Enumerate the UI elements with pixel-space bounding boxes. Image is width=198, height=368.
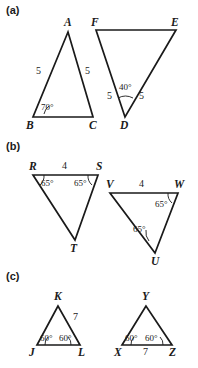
side-length-label-abc-1: 5 bbox=[85, 66, 90, 76]
vertex-label-l: L bbox=[78, 347, 85, 359]
part-label-b: (b) bbox=[6, 140, 20, 152]
angle-label-def-0: 40° bbox=[119, 83, 132, 92]
side-length-label-vwu-0: 4 bbox=[139, 179, 144, 189]
side-length-label-jkl-0: 7 bbox=[73, 312, 78, 322]
vertex-label-r: R bbox=[29, 161, 37, 173]
vertex-label-k: K bbox=[54, 291, 62, 303]
angle-label-jkl-1: 60° bbox=[59, 334, 72, 343]
angle-label-vwu-1: 65° bbox=[133, 225, 146, 234]
angle-arc-vwu-0 bbox=[168, 193, 172, 203]
side-length-label-def-0: 5 bbox=[107, 91, 112, 101]
vertex-label-e: E bbox=[171, 17, 179, 29]
side-length-label-def-1: 5 bbox=[139, 91, 144, 101]
vertex-label-u: U bbox=[151, 256, 159, 268]
vertex-label-v: V bbox=[106, 179, 114, 191]
vertex-label-s: S bbox=[96, 161, 102, 173]
vertex-label-b: B bbox=[26, 120, 34, 132]
angle-arc-vwu-1 bbox=[146, 230, 149, 241]
angle-arc-rst-1 bbox=[88, 175, 92, 185]
vertex-label-d: D bbox=[120, 120, 128, 132]
vertex-label-a: A bbox=[64, 17, 72, 29]
angle-label-vwu-0: 65° bbox=[155, 200, 168, 209]
triangles-svg-layer bbox=[0, 0, 198, 368]
part-label-c: (c) bbox=[6, 270, 19, 282]
side-length-label-abc-0: 5 bbox=[36, 66, 41, 76]
angle-arc-xyz-1 bbox=[160, 337, 163, 345]
side-length-label-xyz-0: 7 bbox=[143, 347, 148, 357]
vertex-label-z: Z bbox=[169, 347, 176, 359]
geometry-figure: (a)70°55ABC40°55FED(b)65°65°4RST65°65°4V… bbox=[0, 0, 198, 368]
angle-label-rst-1: 65° bbox=[74, 179, 87, 188]
side-length-label-rst-0: 4 bbox=[62, 161, 67, 171]
vertex-label-j: J bbox=[29, 347, 35, 359]
vertex-label-x: X bbox=[114, 347, 122, 359]
vertex-label-c: C bbox=[89, 120, 97, 132]
triangle-def bbox=[96, 30, 176, 117]
part-label-a: (a) bbox=[6, 4, 19, 16]
angle-label-rst-0: 65° bbox=[41, 179, 54, 188]
vertex-label-f: F bbox=[91, 17, 99, 29]
angle-label-xyz-0: 60° bbox=[125, 334, 138, 343]
angle-arc-def-0 bbox=[118, 96, 133, 98]
vertex-label-w: W bbox=[174, 179, 184, 191]
angle-label-xyz-1: 60° bbox=[145, 334, 158, 343]
vertex-label-y: Y bbox=[142, 291, 149, 303]
angle-label-jkl-0: 60° bbox=[40, 334, 53, 343]
vertex-label-t: T bbox=[70, 243, 77, 255]
angle-label-abc-0: 70° bbox=[41, 103, 54, 112]
